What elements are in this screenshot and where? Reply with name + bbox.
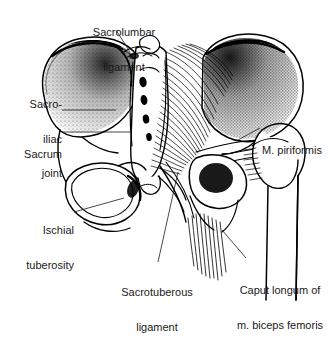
label-ischial-tuberosity-line1: Ischial — [2, 225, 74, 237]
label-m-piriformis-line1: M. piriformis — [262, 145, 332, 157]
label-sacrolumbar-ligament-line1: Sacrolumbar — [72, 27, 176, 39]
label-caput-longum-biceps-femoris: Caput longum of m. biceps femoris — [230, 262, 330, 337]
label-ischial-tuberosity: Ischial tuberosity — [2, 202, 74, 294]
label-sacrolumbar-ligament-line2: ligament — [72, 62, 176, 74]
label-sacrolumbar-ligament: Sacrolumbar ligament — [72, 4, 176, 96]
label-sacrotuberous-ligament: Sacrotuberous ligament — [98, 264, 216, 337]
label-caput-longum-line2: m. biceps femoris — [230, 320, 330, 332]
label-ischial-tuberosity-line2: tuberosity — [2, 260, 74, 272]
label-caput-longum-line1: Caput longum of — [230, 285, 330, 297]
label-sacrotuberous-ligament-line2: ligament — [98, 322, 216, 334]
label-sacrum-line1: Sacrum — [2, 149, 62, 161]
label-sacrotuberous-ligament-line1: Sacrotuberous — [98, 287, 216, 299]
label-sacrum: Sacrum — [2, 126, 62, 184]
label-sacro-iliac-joint-line1: Sacro- — [2, 99, 62, 111]
label-m-piriformis: M. piriformis — [262, 122, 332, 180]
